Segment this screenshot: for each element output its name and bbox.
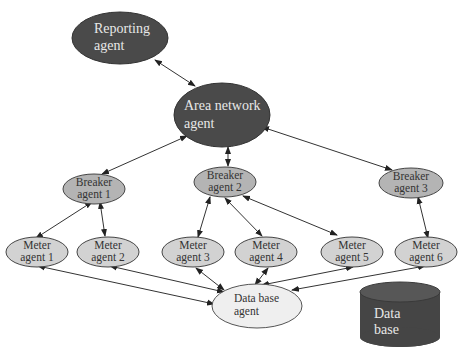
database-label-line2: base [374, 322, 399, 337]
edge-meter1-dbagent [38, 266, 214, 304]
node-label-line2: agent 1 [20, 251, 54, 264]
node-label-line2: agent [184, 116, 214, 131]
node-label-line1: Data base [234, 292, 279, 304]
node-label-line1: Breaker [207, 169, 244, 181]
edge-area-breaker1 [102, 136, 187, 174]
node-label-line2: agent [94, 38, 124, 53]
node-breaker-agent-1[interactable]: Breaker agent 1 [63, 174, 125, 204]
edge-meter2-dbagent [110, 266, 224, 292]
database-cylinder-icon: Data base [360, 282, 440, 347]
node-label-line2: agent 1 [77, 188, 111, 201]
node-label-line1: Meter [338, 239, 366, 251]
node-meter-agent-4[interactable]: Meter agent 4 [235, 237, 297, 267]
node-label-line2: agent 6 [409, 251, 443, 264]
node-label-line2: agent 3 [394, 182, 428, 195]
node-label-line2: agent [234, 305, 260, 318]
node-label-line2: agent 5 [335, 251, 369, 264]
edge-reporting-area [155, 60, 195, 86]
node-meter-agent-5[interactable]: Meter agent 5 [321, 237, 383, 267]
node-label-line2: agent 2 [91, 251, 125, 264]
node-label-line1: Meter [23, 239, 51, 251]
edge-breaker2-meter5 [243, 196, 337, 235]
node-label-line2: agent 4 [249, 251, 283, 264]
node-label-line2: agent 3 [176, 251, 210, 264]
node-label-line1: Meter [412, 239, 440, 251]
edge-meter4-dbagent [255, 268, 268, 285]
edge-breaker3-meter6 [418, 197, 428, 238]
edge-breaker1-meter2 [100, 202, 105, 236]
node-meter-agent-2[interactable]: Meter agent 2 [77, 237, 139, 267]
edge-area-breaker3 [262, 127, 392, 170]
edge-meter5-dbagent [262, 267, 353, 285]
node-label-line1: Breaker [76, 176, 113, 188]
edge-breaker1-meter1 [36, 202, 92, 238]
node-label-line1: Breaker [393, 170, 430, 182]
node-label-line1: Meter [252, 239, 280, 251]
node-label-line1: Meter [94, 239, 122, 251]
edge-breaker2-meter3 [198, 197, 210, 237]
node-meter-agent-6[interactable]: Meter agent 6 [395, 237, 457, 267]
node-reporting-agent[interactable]: Reporting agent [72, 12, 168, 64]
node-meter-agent-1[interactable]: Meter agent 1 [6, 237, 68, 267]
edge-breaker2-meter4 [225, 198, 262, 236]
node-area-network-agent[interactable]: Area network agent [174, 83, 270, 147]
node-meter-agent-3[interactable]: Meter agent 3 [162, 237, 224, 267]
node-breaker-agent-3[interactable]: Breaker agent 3 [379, 168, 443, 198]
node-label-line1: Meter [179, 239, 207, 251]
node-label-line2: agent 2 [208, 181, 242, 194]
node-breaker-agent-2[interactable]: Breaker agent 2 [194, 167, 256, 197]
agent-architecture-diagram: Reporting agent Area network agent Break… [0, 0, 468, 351]
database-label-line1: Data [374, 306, 401, 321]
node-label-line1: Area network [184, 98, 261, 113]
node-database-agent[interactable]: Data base agent [212, 284, 302, 328]
node-label-line1: Reporting [94, 21, 150, 36]
